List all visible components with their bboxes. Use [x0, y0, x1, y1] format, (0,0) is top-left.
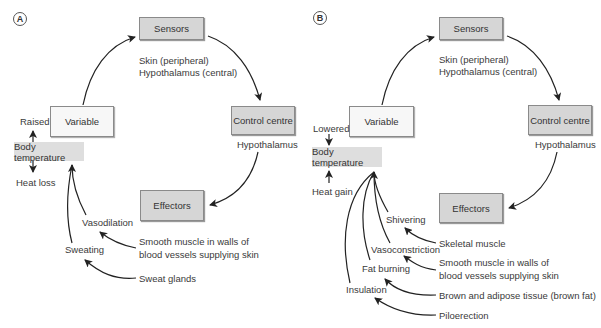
variable-box-b: Variable [349, 106, 414, 137]
effector-smooth-muscle-1: Smooth muscle in walls of [139, 236, 249, 247]
arrow-brown-to-fatburning [385, 279, 436, 295]
control-centre-label: Control centre [233, 115, 293, 126]
body-temperature-box-b: Body temperature [312, 147, 382, 167]
response-insulation: Insulation [346, 284, 387, 295]
sensors-label: Sensors [154, 23, 189, 34]
arrow-glands-to-sweating [85, 260, 136, 278]
effectors-label: Effectors [452, 203, 489, 214]
effectors-box-a: Effectors [140, 190, 204, 221]
variable-label: Variable [65, 116, 99, 127]
effectors-label: Effectors [153, 200, 190, 211]
response-vasodilation: Vasodilation [82, 217, 133, 228]
sensors-desc-skin: Skin (peripheral) [439, 54, 509, 65]
variable-box-a: Variable [50, 106, 114, 137]
arrow-vasoconstriction-to-temp [374, 172, 390, 243]
effector-brown-fat: Brown and adipose tissue (brown fat) [439, 290, 596, 301]
control-centre-box-b: Control centre [528, 105, 592, 135]
arrow-skeletal-to-shivering [405, 228, 436, 243]
control-centre-desc: Hypothalamus [237, 139, 298, 150]
arrow-sweating-to-temp [68, 165, 73, 243]
effector-smooth-muscle-1: Smooth muscle in walls of [439, 257, 549, 268]
sensors-box-a: Sensors [139, 17, 204, 40]
arrow-smooth-to-vasodilation [100, 232, 136, 248]
arrow-variable-to-sensors [83, 37, 135, 105]
effector-skeletal-muscle: Skeletal muscle [439, 238, 506, 249]
arrow-control-to-effectors-b [509, 152, 557, 208]
heat-loss-label: Heat loss [16, 177, 56, 188]
sensors-desc-skin: Skin (peripheral) [139, 55, 209, 66]
lowered-label: Lowered [313, 123, 349, 134]
effector-piloerection: Piloerection [439, 310, 489, 321]
effector-sweat-glands: Sweat glands [139, 273, 196, 284]
effector-smooth-muscle-2: blood vessels supplying skin [139, 249, 259, 260]
panel-a-tag: A [13, 12, 27, 26]
arrow-control-to-effectors [210, 152, 258, 205]
arrow-shivering-to-temp [374, 172, 388, 212]
heat-gain-label: Heat gain [312, 186, 353, 197]
arrow-variable-to-sensors-b [382, 37, 434, 105]
sensors-desc-hypothalamus: Hypothalamus (central) [139, 67, 237, 78]
control-centre-desc: Hypothalamus [535, 139, 596, 150]
arrow-vasodilation-to-temp [72, 165, 86, 215]
sensors-label: Sensors [454, 23, 489, 34]
response-shivering: Shivering [386, 214, 426, 225]
arrow-piloerection-to-insulation [375, 298, 436, 315]
response-vasoconstriction: Vasoconstriction [371, 244, 440, 255]
variable-label: Variable [364, 116, 398, 127]
sensors-desc-hypothalamus: Hypothalamus (central) [439, 66, 537, 77]
sensors-box-b: Sensors [439, 17, 503, 40]
panel-b-tag: B [313, 11, 327, 25]
effectors-box-b: Effectors [439, 193, 503, 223]
raised-label: Raised [20, 116, 50, 127]
response-fat-burning: Fat burning [362, 263, 410, 274]
control-centre-label: Control centre [530, 115, 590, 126]
body-temperature-label: Body temperature [14, 141, 84, 163]
body-temperature-box-a: Body temperature [14, 142, 84, 161]
effector-smooth-muscle-2: blood vessels supplying skin [439, 270, 559, 281]
response-sweating: Sweating [65, 244, 104, 255]
body-temperature-label: Body temperature [312, 146, 382, 168]
control-centre-box-a: Control centre [231, 106, 295, 135]
